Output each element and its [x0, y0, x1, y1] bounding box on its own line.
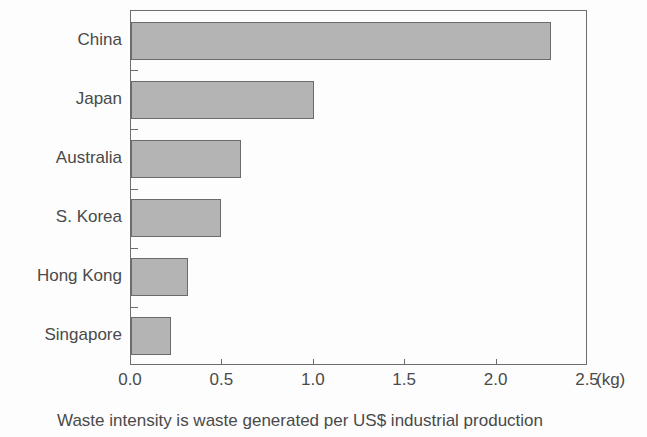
- bar-japan: [131, 81, 588, 119]
- bar-s-korea: [131, 199, 588, 237]
- x-axis-tick-label: 1.0: [278, 370, 348, 390]
- bar-rect: [131, 317, 171, 355]
- bar-singapore: [131, 317, 588, 355]
- category-axis-tick: [131, 307, 138, 308]
- bar-hong-kong: [131, 258, 588, 296]
- x-axis-ticks: [130, 359, 587, 367]
- category-axis-tick: [131, 248, 138, 249]
- category-axis-tick: [131, 189, 138, 190]
- x-axis-tick-label: 1.5: [369, 370, 439, 390]
- category-axis-tick: [131, 70, 138, 71]
- bar-rect: [131, 258, 188, 296]
- category-label: Australia: [2, 149, 122, 166]
- x-axis-tick: [404, 359, 405, 365]
- chart-caption: Waste intensity is waste generated per U…: [57, 411, 543, 431]
- bar-china: [131, 22, 588, 60]
- bar-australia: [131, 140, 588, 178]
- x-axis-unit-label: (kg): [596, 370, 625, 390]
- category-label: Japan: [2, 90, 122, 107]
- bar-rect: [131, 199, 221, 237]
- category-label: Hong Kong: [2, 267, 122, 284]
- x-axis-tick-labels: 0.00.51.01.52.02.5: [0, 370, 647, 394]
- x-axis-tick-label: 0.5: [186, 370, 256, 390]
- category-label: Singapore: [2, 326, 122, 343]
- bar-chart-figure: ChinaJapanAustraliaS. KoreaHong KongSing…: [0, 0, 647, 437]
- x-axis-tick-label: 0.0: [95, 370, 165, 390]
- bar-rect: [131, 81, 314, 119]
- x-axis-tick: [496, 359, 497, 365]
- x-axis-tick-label: 2.0: [461, 370, 531, 390]
- category-label: China: [2, 31, 122, 48]
- x-axis-tick: [313, 359, 314, 365]
- bar-rect: [131, 22, 551, 60]
- category-axis-tick: [131, 129, 138, 130]
- category-label: S. Korea: [2, 208, 122, 225]
- x-axis-tick: [221, 359, 222, 365]
- plot-area: [130, 10, 587, 365]
- bar-rect: [131, 140, 241, 178]
- category-axis-labels: ChinaJapanAustraliaS. KoreaHong KongSing…: [0, 10, 122, 365]
